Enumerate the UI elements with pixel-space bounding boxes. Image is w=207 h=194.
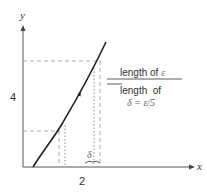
epsilon-delta-diagram: y x 4 2 δ length of ε length of δ = ε/5 — [0, 0, 207, 194]
delta-label: δ — [87, 150, 92, 160]
delta-brace-icon — [85, 161, 100, 163]
legend-length-of-text: length of — [120, 67, 161, 78]
legend-line-3: δ = ε/5 — [127, 98, 155, 108]
legend-epsilon-symbol: ε — [161, 67, 165, 78]
legend-line-2: length of — [120, 86, 161, 96]
diagram-canvas — [0, 0, 207, 194]
legend-line-1: length of ε — [120, 68, 165, 78]
y-axis-arrow-icon — [21, 25, 26, 31]
x-axis-arrow-icon — [189, 165, 195, 170]
x-tick-label: 2 — [79, 176, 85, 187]
x-axis-label: x — [197, 161, 202, 172]
y-tick-label: 4 — [10, 92, 16, 103]
y-axis-label: y — [20, 10, 25, 21]
